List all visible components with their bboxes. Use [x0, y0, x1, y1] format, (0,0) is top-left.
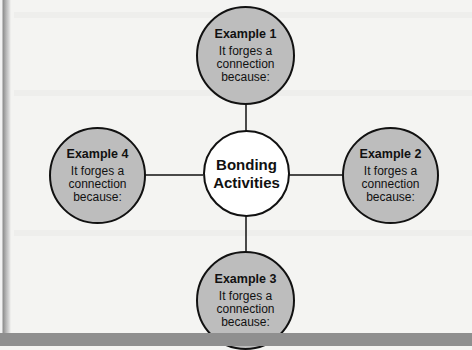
example-text: because: [221, 71, 270, 84]
example-title: Example 3 [215, 272, 277, 287]
example-node-1: Example 1 It forges a connection because… [196, 6, 295, 105]
bottom-border-band [0, 333, 472, 346]
center-node: Bonding Activities [203, 130, 290, 217]
example-text: because: [221, 316, 270, 329]
example-text: because: [366, 191, 415, 204]
example-text: because: [73, 191, 122, 204]
example-title: Example 4 [67, 147, 129, 162]
example-node-4: Example 4 It forges a connection because… [49, 127, 146, 224]
example-node-2: Example 2 It forges a connection because… [342, 127, 439, 224]
example-title: Example 1 [215, 27, 277, 42]
center-title-line2: Activities [213, 174, 280, 192]
center-title-line1: Bonding [216, 156, 277, 174]
example-title: Example 2 [360, 147, 422, 162]
